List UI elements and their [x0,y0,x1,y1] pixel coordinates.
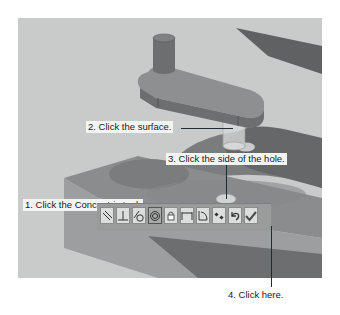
cylinder-boss [153,38,175,70]
concentric-icon [149,210,161,222]
angle-icon [197,210,209,222]
leader-line-step-4-outside [271,278,272,287]
leader-line-step-2 [181,128,233,129]
lock-icon [165,210,177,222]
tangent-tool-button[interactable] [132,207,146,224]
callout-step-4: 4. Click here. [226,289,285,301]
perpendicular-tool-button[interactable] [116,207,130,224]
assembly-scene [18,18,322,278]
tangent-icon [133,210,145,222]
lock-tool-button[interactable] [164,207,178,224]
checkmark-icon [245,210,257,222]
leader-line-step-3 [226,165,227,199]
leader-line-step-4 [271,226,272,278]
angle-tool-button[interactable] [196,207,210,224]
undo-icon [229,210,241,222]
parallel-tool-button[interactable] [100,207,114,224]
flip-alignment-icon [213,210,225,222]
callout-step-2: 2. Click the surface. [86,121,173,133]
3d-viewport[interactable]: 2. Click the surface. 3. Click the side … [18,18,322,278]
flip-alignment-tool-button[interactable] [212,207,226,224]
perpendicular-icon [117,210,129,222]
ok-checkmark-button[interactable] [244,207,258,224]
background-slab [236,28,322,74]
concentric-tool-button[interactable] [148,207,162,224]
mate-toolbar [97,203,271,231]
undo-tool-button[interactable] [228,207,242,224]
distance-icon [181,210,193,222]
callout-step-3: 3. Click the side of the hole. [166,153,287,165]
distance-tool-button[interactable] [180,207,194,224]
parallel-icon [101,210,113,222]
